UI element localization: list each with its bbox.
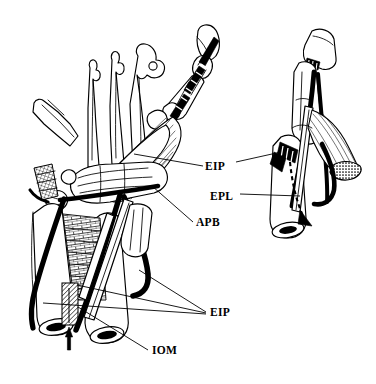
figure-container: EIP EPL APB EIP IOM (0, 0, 376, 384)
dorsal-tubercle (61, 170, 76, 184)
label-iom: IOM (152, 344, 177, 356)
anatomical-illustration: EIP EPL APB EIP IOM (0, 0, 376, 384)
label-apb: APB (196, 216, 220, 228)
label-eip-upper: EIP (205, 160, 225, 172)
label-eip-lower: EIP (210, 306, 230, 318)
label-epl: EPL (210, 190, 233, 202)
